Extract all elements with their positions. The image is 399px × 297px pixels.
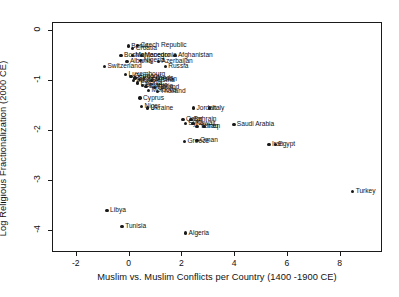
- data-point-label: Italy: [212, 105, 224, 112]
- data-point: [164, 65, 167, 68]
- data-point-label: Benin: [131, 43, 148, 50]
- x-tick-label-3: 4: [222, 258, 246, 268]
- data-point: [144, 85, 147, 88]
- data-point: [127, 44, 130, 47]
- x-tick-label-1: 0: [117, 258, 141, 268]
- x-tick-label-4: 6: [275, 258, 299, 268]
- x-tick-mark: [287, 252, 288, 256]
- y-tick-label-1: -1: [32, 70, 42, 88]
- x-tick-mark: [234, 252, 235, 256]
- data-point: [195, 139, 198, 142]
- x-tick-mark: [129, 252, 130, 256]
- data-point-label: Russia: [168, 63, 188, 70]
- data-point: [181, 118, 184, 121]
- data-point: [208, 106, 211, 109]
- data-point: [202, 125, 205, 128]
- data-point-label: Egypt: [278, 141, 295, 148]
- data-point: [105, 209, 108, 212]
- y-tick-label-4: -4: [32, 220, 42, 238]
- data-point-label: Saudi Arabia: [237, 121, 274, 128]
- data-point: [138, 96, 141, 99]
- data-point-label: Cyprus: [143, 95, 164, 102]
- data-point: [124, 73, 127, 76]
- data-point: [192, 106, 195, 109]
- y-tick-label-3: -3: [32, 170, 42, 188]
- data-point: [146, 106, 149, 109]
- data-point-label: Libya: [110, 207, 126, 214]
- x-tick-label-5: 8: [328, 258, 352, 268]
- data-point: [267, 143, 270, 146]
- x-tick-mark: [181, 252, 182, 256]
- x-tick-mark: [340, 252, 341, 256]
- data-points-layer: Czech RepublicCroatiaBeninBosniaMonteneg…: [53, 23, 381, 251]
- y-tick-label-2: -2: [32, 120, 42, 138]
- data-point: [195, 125, 198, 128]
- data-point: [147, 89, 150, 92]
- data-point: [140, 105, 143, 108]
- data-point-label: Thailand: [160, 88, 185, 95]
- data-point: [232, 123, 235, 126]
- data-point: [351, 190, 354, 193]
- y-axis-title: Log Religious Fractionalization (2000 CE…: [0, 0, 10, 297]
- data-point-label: Iraq: [207, 123, 218, 130]
- x-tick-label-0: -2: [64, 258, 88, 268]
- data-point-label: Oman: [200, 137, 218, 144]
- plot-area: Czech RepublicCroatiaBeninBosniaMonteneg…: [52, 22, 382, 252]
- data-point-label: Tunisia: [125, 223, 146, 230]
- data-point: [120, 225, 123, 228]
- data-point: [184, 122, 187, 125]
- data-point-label: Turkey: [356, 188, 376, 195]
- data-point-label: Algeria: [189, 230, 210, 237]
- data-point: [103, 65, 106, 68]
- data-point: [129, 75, 132, 78]
- data-point: [184, 231, 187, 234]
- data-point: [191, 122, 194, 125]
- data-point: [183, 140, 186, 143]
- data-point-label: Ukraine: [151, 105, 174, 112]
- data-point-label: Switzerland: [107, 63, 141, 70]
- scatter-plot-figure: Log Religious Fractionalization (2000 CE…: [0, 0, 399, 297]
- y-tick-label-0: 0: [32, 20, 42, 38]
- x-tick-label-2: 2: [169, 258, 193, 268]
- x-axis-title: Muslim vs. Muslim Conflicts per Country …: [52, 272, 382, 282]
- data-point: [119, 54, 122, 57]
- data-point: [136, 81, 139, 84]
- x-tick-mark: [76, 252, 77, 256]
- data-point: [132, 79, 135, 82]
